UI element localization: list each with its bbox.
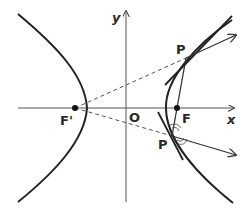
tangent-lower — [158, 112, 183, 160]
focal-line-lower — [172, 108, 177, 136]
x-axis-label: x — [227, 113, 235, 126]
hyperbola-diagram — [0, 0, 252, 219]
point-lower-label: P — [158, 138, 168, 151]
focus-right-point — [174, 105, 180, 111]
dashed-line-upper — [75, 58, 186, 108]
dashed-line-lower — [75, 108, 172, 136]
point-upper-label: P — [176, 43, 186, 56]
focus-left-label: F' — [60, 114, 73, 127]
focus-left-point — [72, 105, 78, 111]
focus-right-label: F — [182, 112, 191, 125]
y-axis-label: y — [112, 11, 120, 24]
origin-label: O — [129, 111, 140, 124]
